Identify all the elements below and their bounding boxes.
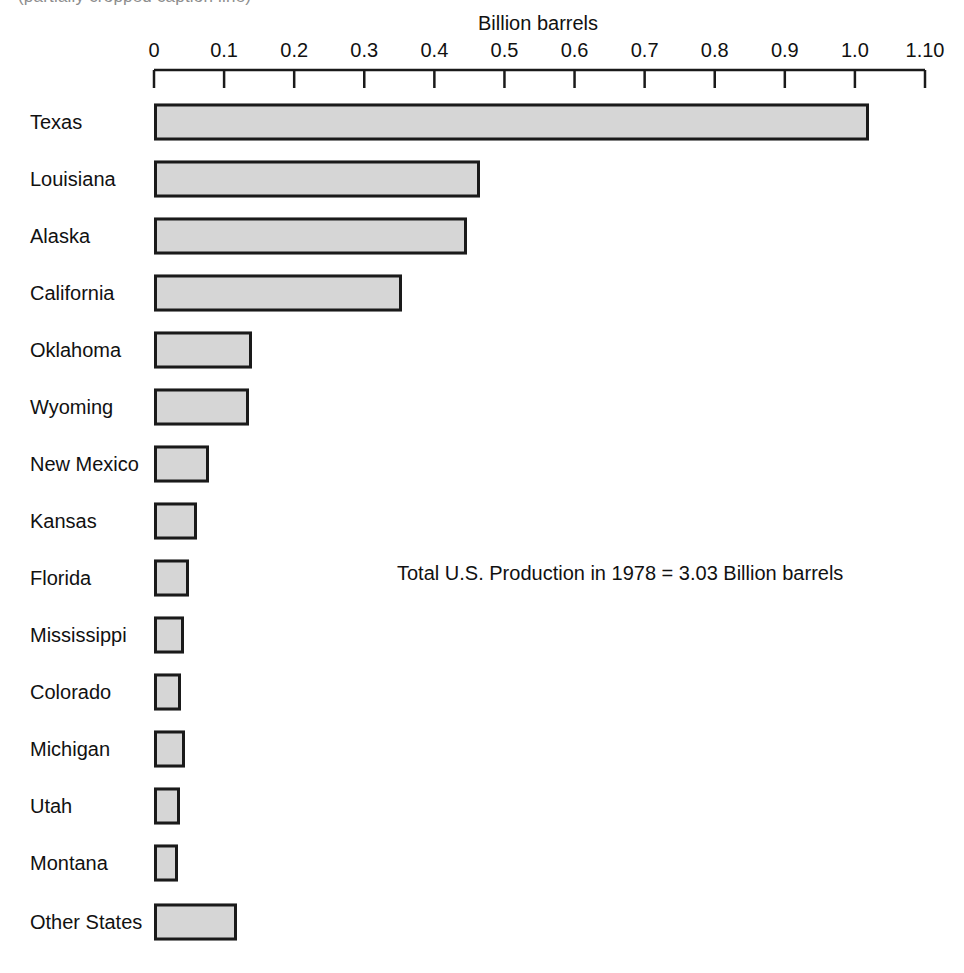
bar	[154, 845, 178, 882]
bar-category-label: Montana	[30, 851, 108, 875]
bar-category-label: Louisiana	[30, 167, 116, 191]
bar-category-label: Texas	[30, 110, 82, 134]
bar-category-label: California	[30, 281, 114, 305]
bar	[154, 904, 237, 941]
bar-category-label: Kansas	[30, 509, 97, 533]
bar-category-label: Utah	[30, 794, 72, 818]
bar	[154, 104, 869, 141]
bar	[154, 218, 467, 255]
bar-category-label: Alaska	[30, 224, 90, 248]
bar-category-label: Other States	[30, 910, 142, 934]
bar	[154, 389, 249, 426]
bar	[154, 560, 189, 597]
bar	[154, 731, 185, 768]
bar	[154, 503, 197, 540]
bar-series: TexasLouisianaAlaskaCaliforniaOklahomaWy…	[0, 0, 964, 973]
bar-category-label: Michigan	[30, 737, 110, 761]
bar-category-label: Florida	[30, 566, 91, 590]
total-production-annotation: Total U.S. Production in 1978 = 3.03 Bil…	[397, 561, 843, 585]
bar	[154, 161, 480, 198]
bar-category-label: Oklahoma	[30, 338, 121, 362]
bar	[154, 275, 402, 312]
bar-category-label: Wyoming	[30, 395, 113, 419]
bar-category-label: Colorado	[30, 680, 111, 704]
bar-category-label: Mississippi	[30, 623, 127, 647]
bar-category-label: New Mexico	[30, 452, 139, 476]
bar	[154, 617, 184, 654]
bar	[154, 446, 209, 483]
bar	[154, 788, 180, 825]
bar	[154, 332, 252, 369]
bar	[154, 674, 181, 711]
